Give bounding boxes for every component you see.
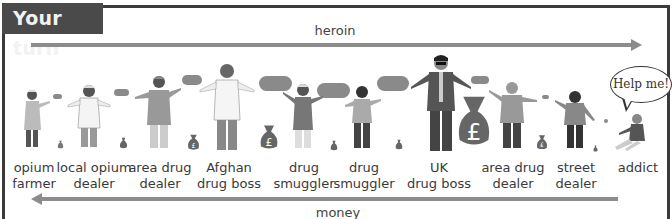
svg-text:£: £ bbox=[191, 142, 195, 150]
afghan-drug-boss-figure bbox=[198, 62, 256, 154]
role-label-drug-smuggler-2: drugsmuggler bbox=[333, 160, 394, 192]
role-label-area-drug-dealer-2: area drugdealer bbox=[481, 160, 544, 192]
money-flow-label: money bbox=[288, 205, 388, 219]
pound-money-bag-icon: £ bbox=[259, 124, 279, 151]
money-bag-icon bbox=[57, 140, 64, 149]
area-drug-dealer-2-figure bbox=[487, 80, 539, 152]
area-drug-dealer-figure bbox=[133, 73, 183, 152]
heroin-package-icon bbox=[53, 94, 62, 99]
heroin-package-icon bbox=[114, 89, 129, 96]
heroin-package-icon bbox=[604, 119, 608, 123]
heroin-package-icon bbox=[542, 95, 549, 99]
addict-figure bbox=[613, 113, 653, 153]
drug-smuggler-2-figure bbox=[343, 85, 383, 152]
role-label-street-dealer: streetdealer bbox=[555, 160, 596, 192]
role-label-addict: addict bbox=[618, 160, 658, 176]
role-label-local-opium-dealer: local opiumdealer bbox=[56, 160, 131, 192]
local-opium-dealer-figure bbox=[66, 83, 112, 150]
role-label-drug-smuggler-1: drugsmuggler bbox=[273, 160, 334, 192]
role-label-uk-drug-boss: UKdrug boss bbox=[407, 160, 471, 192]
panel-title: Your turn bbox=[2, 3, 103, 34]
speech-bubble: Help me! bbox=[610, 66, 672, 103]
uk-drug-boss-figure bbox=[407, 53, 475, 155]
street-dealer-figure bbox=[553, 90, 597, 152]
money-bag-icon bbox=[330, 140, 338, 151]
heroin-flow-label: heroin bbox=[285, 23, 385, 38]
opium-farmer-figure bbox=[20, 88, 52, 150]
money-bag-icon bbox=[119, 137, 128, 149]
speech-bubble-tail-inner bbox=[624, 97, 633, 108]
role-label-area-drug-dealer: area drugdealer bbox=[128, 160, 191, 192]
role-label-afghan-drug-boss: Afghandrug boss bbox=[197, 160, 261, 192]
heroin-flow-arrow bbox=[31, 43, 633, 47]
money-bag-icon bbox=[395, 139, 403, 150]
money-flow-arrow bbox=[40, 197, 618, 201]
drug-smuggler-1-figure bbox=[281, 82, 325, 152]
svg-text:£: £ bbox=[266, 136, 273, 149]
role-label-opium-farmer: opiumfarmer bbox=[12, 160, 56, 192]
svg-text:£: £ bbox=[540, 141, 544, 148]
